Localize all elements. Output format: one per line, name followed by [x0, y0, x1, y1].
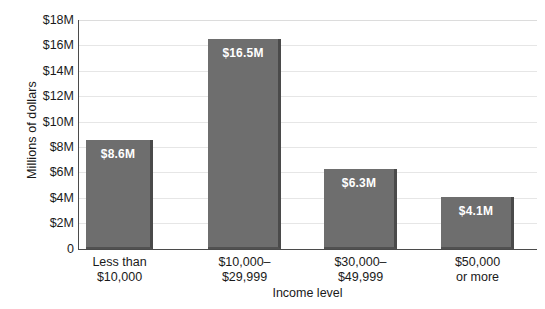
- bar[interactable]: $6.3M: [324, 169, 397, 249]
- bar[interactable]: $4.1M: [441, 197, 514, 249]
- x-category-label-line1: $50,000: [404, 255, 545, 270]
- bar-value-label: $6.3M: [324, 176, 394, 190]
- y-tick-label: $4M: [2, 191, 74, 205]
- bar-value-label: $16.5M: [208, 46, 278, 60]
- y-tick-label: $14M: [2, 64, 74, 78]
- y-tick-label: 0: [2, 242, 74, 256]
- y-tick-label: $16M: [2, 38, 74, 52]
- y-tick-label: $2M: [2, 216, 74, 230]
- bar-value-label: $4.1M: [441, 204, 511, 218]
- gridline: [78, 45, 537, 46]
- x-category-label-line2: or more: [404, 270, 545, 285]
- x-category-label: $50,000 or more: [404, 255, 545, 284]
- bar[interactable]: $8.6M: [86, 140, 153, 249]
- y-tick-label: $12M: [2, 89, 74, 103]
- gridline: [78, 71, 537, 72]
- plot-area: $8.6M $16.5M $6.3M $4.1M: [78, 20, 537, 249]
- gridline: [78, 122, 537, 123]
- y-tick-label: $6M: [2, 165, 74, 179]
- bar-chart: Millions of dollars $18M $16M $14M $12M …: [0, 0, 545, 309]
- bar-value-label: $8.6M: [86, 147, 150, 161]
- y-axis-line: [78, 20, 79, 250]
- gridline: [78, 96, 537, 97]
- y-tick-label: $8M: [2, 140, 74, 154]
- x-axis-line: [78, 249, 537, 250]
- x-axis-title: Income level: [78, 286, 537, 300]
- bar[interactable]: $16.5M: [208, 39, 281, 249]
- gridline: [78, 20, 537, 21]
- y-tick-label: $18M: [2, 13, 74, 27]
- y-tick-label: $10M: [2, 115, 74, 129]
